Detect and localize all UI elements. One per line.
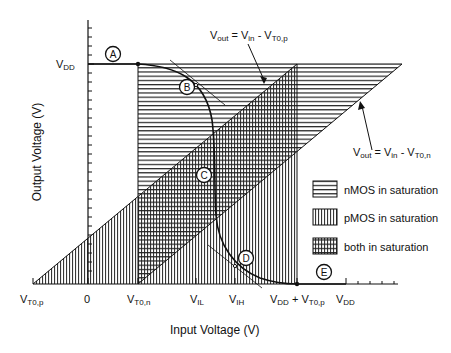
point-c-label: C	[200, 170, 207, 181]
annotation-line-p: Vout = Vin - VT0,p	[210, 30, 288, 43]
y-tick-vdd: VDD	[56, 59, 75, 72]
annotation-line-n: Vout = Vin - VT0,n	[353, 147, 431, 160]
x-tick-vdd-plus-vt0p: VDD + VT0,p	[270, 294, 325, 307]
x-tick-vt0n: VT0,n	[127, 294, 150, 307]
x-tick-vdd: VDD	[336, 294, 355, 307]
legend-label-pmos: pMOS in saturation	[344, 212, 438, 224]
point-d-label: D	[242, 253, 249, 264]
point-b-label: B	[184, 82, 191, 93]
x-tick-vt0p: VT0,p	[20, 294, 43, 307]
legend-swatch-pmos	[313, 209, 337, 225]
x-tick-vil: VIL	[190, 294, 204, 307]
x-axis-title: Input Voltage (V)	[170, 323, 259, 337]
vtc-regions: A B C D E	[0, 0, 451, 353]
legend-label-nmos: nMOS in saturation	[344, 184, 438, 196]
x-tick-zero: 0	[84, 294, 90, 305]
legend-swatch-both	[313, 238, 337, 254]
legend-label-both: both in saturation	[344, 241, 428, 253]
y-axis-title: Output Voltage (V)	[30, 103, 44, 202]
legend-swatch-nmos	[313, 181, 337, 197]
point-a-label: A	[110, 49, 117, 60]
x-tick-vih: VIH	[229, 294, 244, 307]
point-e-label: E	[321, 267, 328, 278]
